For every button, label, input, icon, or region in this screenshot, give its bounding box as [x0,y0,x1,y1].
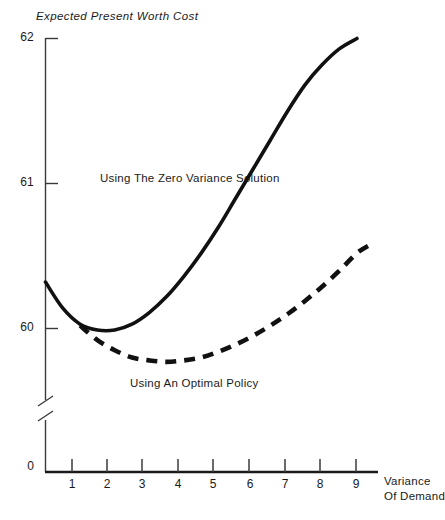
series-line-zero-variance-solution [46,39,357,331]
axis-break-slash-bottom [38,411,53,421]
series-line-optimal-policy [80,244,371,361]
